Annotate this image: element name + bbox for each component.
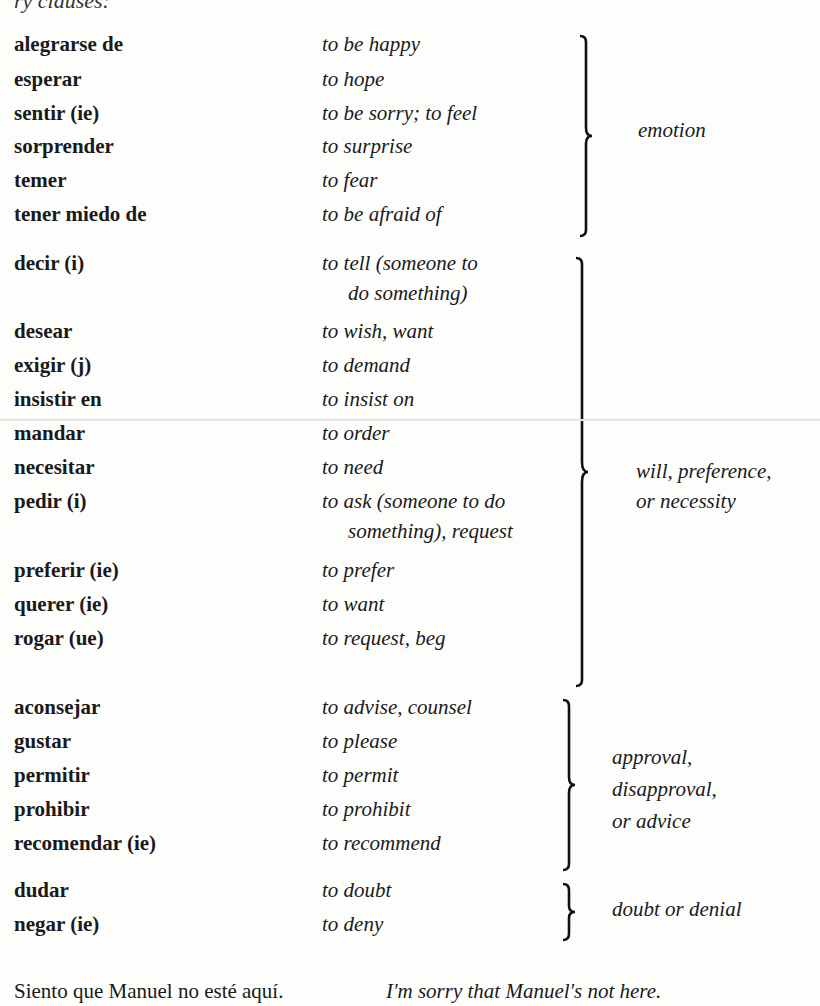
english-gloss: to be afraid of xyxy=(322,199,442,229)
spanish-verb: recomendar (ie) xyxy=(14,828,156,858)
header-fragment: ry clauses: xyxy=(14,0,110,14)
spanish-verb: tener miedo de xyxy=(14,199,147,229)
english-gloss: to ask (someone to do something), reques… xyxy=(322,486,513,546)
english-gloss-line: to ask (someone to do xyxy=(322,489,505,513)
category-label: doubt or denial xyxy=(612,894,742,924)
spanish-verb: preferir (ie) xyxy=(14,555,119,585)
spanish-verb: dudar xyxy=(14,875,69,905)
right-brace-icon xyxy=(578,34,592,238)
english-gloss: to doubt xyxy=(322,875,391,905)
spanish-verb: gustar xyxy=(14,726,71,756)
english-gloss: to recommend xyxy=(322,828,441,858)
spanish-verb: mandar xyxy=(14,418,85,448)
spanish-verb: negar (ie) xyxy=(14,909,99,939)
category-label-line: will, preference, xyxy=(636,456,772,486)
english-gloss: to permit xyxy=(322,760,398,790)
english-gloss: to demand xyxy=(322,350,410,380)
spanish-verb: decir (i) xyxy=(14,248,84,278)
english-gloss: to deny xyxy=(322,909,383,939)
english-gloss: to advise, counsel xyxy=(322,692,472,722)
english-gloss-continuation: do something) xyxy=(322,278,478,308)
page-fold-line xyxy=(0,419,820,421)
english-gloss: to hope xyxy=(322,64,384,94)
category-label: will, preference, or necessity xyxy=(636,456,772,516)
spanish-verb: pedir (i) xyxy=(14,486,87,516)
category-label-line: disapproval, xyxy=(612,773,717,805)
right-brace-icon xyxy=(561,698,575,872)
category-label-line: approval, xyxy=(612,741,717,773)
spanish-verb: prohibir xyxy=(14,794,89,824)
category-label-line: or advice xyxy=(612,805,717,837)
category-label: approval, disapproval, or advice xyxy=(612,741,717,837)
english-gloss: to be happy xyxy=(322,29,420,59)
spanish-verb: esperar xyxy=(14,64,82,94)
right-brace-icon xyxy=(561,882,575,942)
english-gloss: to prefer xyxy=(322,555,394,585)
spanish-verb: rogar (ue) xyxy=(14,623,104,653)
english-gloss: to want xyxy=(322,589,384,619)
spanish-verb: sorprender xyxy=(14,131,114,161)
english-gloss: to wish, want xyxy=(322,316,433,346)
right-brace-icon xyxy=(574,256,588,688)
english-gloss: to insist on xyxy=(322,384,414,414)
english-gloss: to please xyxy=(322,726,397,756)
spanish-verb: querer (ie) xyxy=(14,589,108,619)
spanish-verb: aconsejar xyxy=(14,692,100,722)
english-gloss-line: to tell (someone to xyxy=(322,251,478,275)
english-gloss: to tell (someone to do something) xyxy=(322,248,478,308)
spanish-verb: permitir xyxy=(14,760,90,790)
english-gloss: to be sorry; to feel xyxy=(322,98,477,128)
spanish-verb: insistir en xyxy=(14,384,102,414)
spanish-verb: alegrarse de xyxy=(14,29,123,59)
example-spanish: Siento que Manuel no esté aquí. xyxy=(14,979,283,1003)
english-gloss: to need xyxy=(322,452,383,482)
example-sentence: Siento que Manuel no esté aquí. I'm sorr… xyxy=(14,976,283,1006)
example-english: I'm sorry that Manuel's not here. xyxy=(386,976,661,1006)
english-gloss: to request, beg xyxy=(322,623,445,653)
english-gloss: to surprise xyxy=(322,131,412,161)
spanish-verb: sentir (ie) xyxy=(14,98,99,128)
english-gloss: to fear xyxy=(322,165,377,195)
category-label: emotion xyxy=(638,115,706,145)
spanish-verb: necesitar xyxy=(14,452,94,482)
english-gloss-continuation: something), request xyxy=(322,516,513,546)
english-gloss: to prohibit xyxy=(322,794,410,824)
english-gloss: to order xyxy=(322,418,389,448)
spanish-verb: exigir (j) xyxy=(14,350,91,380)
category-label-line: or necessity xyxy=(636,486,772,516)
spanish-verb: temer xyxy=(14,165,66,195)
spanish-verb: desear xyxy=(14,316,72,346)
